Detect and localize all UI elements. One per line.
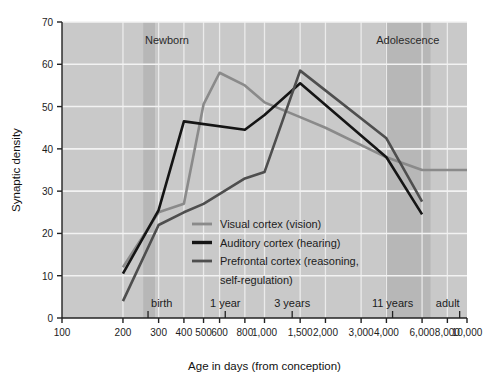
x-tick-label-600: 600 [211,327,228,338]
stage-label-1-year: 1 year [210,297,241,309]
x-tick-label-200: 200 [115,327,132,338]
x-tick-label-3000: 3,000 [349,327,374,338]
y-tick-label-70: 70 [42,17,54,28]
x-tick-label-300: 300 [150,327,167,338]
chart-canvas: NewbornAdolescence0102030405060701002003… [0,0,497,392]
legend-label-2: Prefrontal cortex (reasoning, [220,255,359,267]
x-tick-label-10000: 10,000 [452,327,483,338]
x-axis-title: Age in days (from conception) [188,360,341,372]
x-tick-label-4000: 4,000 [374,327,399,338]
synaptic-density-chart: NewbornAdolescence0102030405060701002003… [0,0,497,392]
legend-label-1: Auditory cortex (hearing) [220,237,340,249]
legend-label-3: self-regulation) [220,274,293,286]
y-tick-label-60: 60 [42,59,54,70]
y-tick-label-10: 10 [42,271,54,282]
era-label-newborn: Newborn [145,34,189,46]
x-tick-label-2000: 2,000 [313,327,338,338]
y-tick-label-20: 20 [42,228,54,239]
stage-label-3-years: 3 years [274,297,311,309]
x-tick-label-6000: 6,000 [410,327,435,338]
era-label-adolescence: Adolescence [376,34,439,46]
x-tick-label-500: 500 [195,327,212,338]
y-tick-label-40: 40 [42,144,54,155]
y-tick-label-50: 50 [42,102,54,113]
y-tick-label-30: 30 [42,186,54,197]
y-axis-title: Synaptic density [10,128,22,212]
x-tick-label-1000: 1,000 [252,327,277,338]
x-tick-label-400: 400 [176,327,193,338]
x-tick-label-1500: 1,500 [288,327,313,338]
stage-label-11-years: 11 years [372,297,414,309]
legend-label-0: Visual cortex (vision) [220,218,321,230]
x-tick-label-100: 100 [54,327,71,338]
stage-label-adult: adult [436,297,460,309]
stage-label-birth: birth [151,297,172,309]
era-band-newborn [143,22,155,318]
y-tick-label-0: 0 [47,313,53,324]
